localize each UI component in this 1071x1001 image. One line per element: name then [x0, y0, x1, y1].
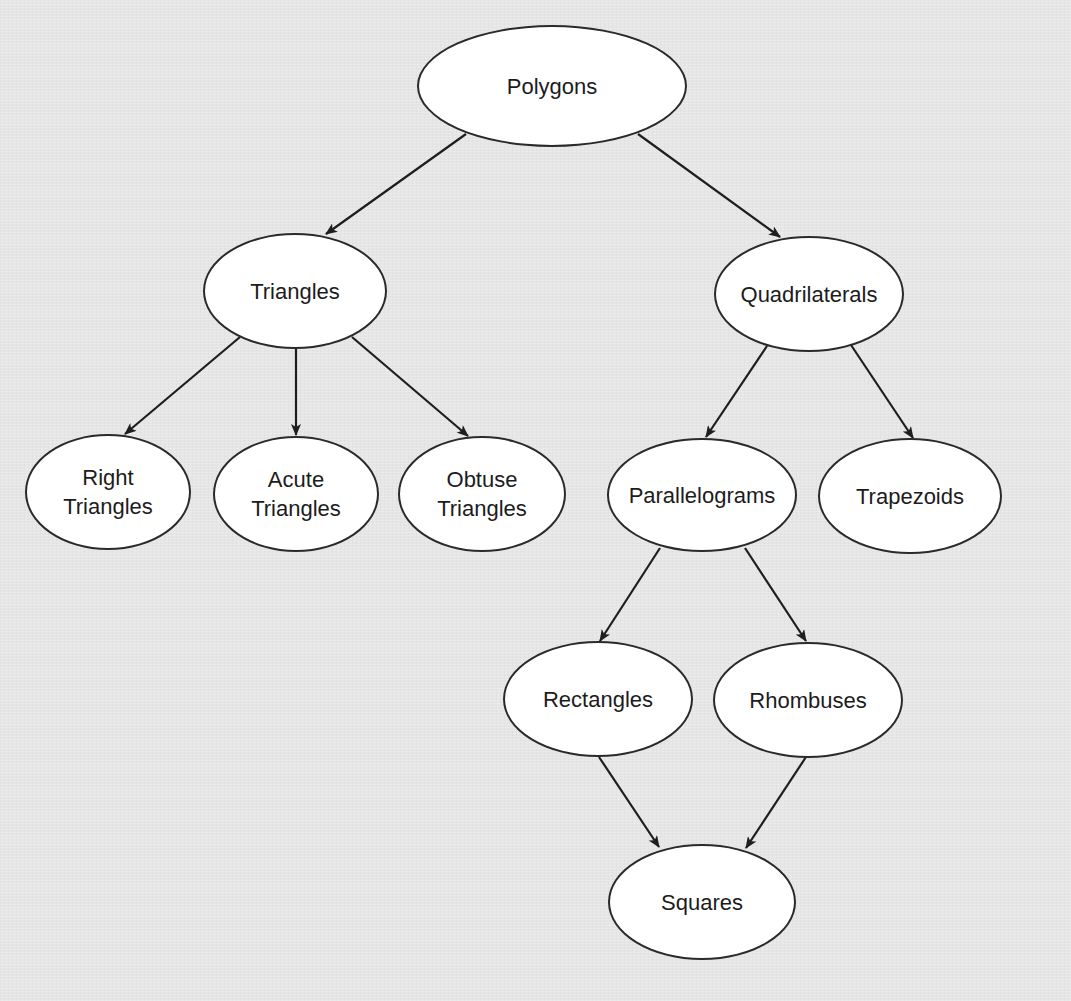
node-label-right-triangles: Right Triangles	[63, 463, 153, 521]
edge-arrow	[326, 134, 466, 234]
node-label-rectangles: Rectangles	[543, 685, 653, 714]
edge-arrow	[746, 757, 806, 848]
node-label-parallelograms: Parallelograms	[629, 481, 776, 510]
edge-arrow	[600, 548, 660, 641]
node-acute-triangles: Acute Triangles	[213, 436, 379, 552]
edge-arrow	[638, 134, 780, 237]
node-triangles: Triangles	[203, 233, 387, 349]
node-polygons: Polygons	[417, 25, 687, 147]
node-quadrilaterals: Quadrilaterals	[714, 236, 904, 352]
node-rhombuses: Rhombuses	[713, 642, 903, 758]
node-label-acute-triangles: Acute Triangles	[251, 465, 341, 523]
node-obtuse-triangles: Obtuse Triangles	[398, 436, 566, 552]
node-parallelograms: Parallelograms	[607, 438, 797, 552]
node-label-triangles: Triangles	[250, 277, 340, 306]
node-label-obtuse-triangles: Obtuse Triangles	[437, 465, 527, 523]
diagram-canvas: Polygons Triangles Quadrilaterals Right …	[0, 0, 1071, 1001]
edge-arrow	[745, 548, 806, 641]
node-right-triangles: Right Triangles	[25, 434, 191, 550]
node-label-squares: Squares	[661, 888, 743, 917]
node-rectangles: Rectangles	[503, 641, 693, 757]
edge-arrow	[352, 337, 468, 436]
node-label-trapezoids: Trapezoids	[856, 482, 964, 511]
node-squares: Squares	[608, 844, 796, 960]
node-label-polygons: Polygons	[507, 72, 598, 101]
edge-arrow	[706, 346, 767, 437]
edge-arrow	[599, 757, 659, 847]
node-label-rhombuses: Rhombuses	[749, 686, 866, 715]
node-label-quadrilaterals: Quadrilaterals	[741, 280, 878, 309]
node-trapezoids: Trapezoids	[818, 438, 1002, 554]
edge-arrow	[125, 337, 240, 434]
edge-arrow	[851, 345, 913, 438]
